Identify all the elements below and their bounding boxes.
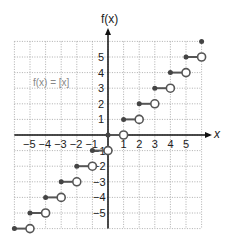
closed-endpoint-icon xyxy=(199,39,204,44)
y-axis-label: f(x) xyxy=(101,12,118,26)
closed-endpoint-icon xyxy=(168,70,173,75)
closed-endpoint-icon xyxy=(121,117,126,122)
y-tick-label: 4 xyxy=(98,67,104,79)
x-tick-label: −3 xyxy=(54,138,67,150)
x-tick-label: 4 xyxy=(167,138,173,150)
y-tick-label: −5 xyxy=(93,207,106,219)
y-axis-arrow-icon xyxy=(105,28,111,35)
x-tick-label: 3 xyxy=(152,138,158,150)
closed-endpoint-icon xyxy=(12,226,17,231)
open-endpoint-icon xyxy=(198,53,206,61)
y-tick-label: 5 xyxy=(98,51,104,63)
open-endpoint-icon xyxy=(26,225,34,233)
y-tick-label: 2 xyxy=(98,98,104,110)
x-tick-label: −4 xyxy=(39,138,52,150)
step-function-chart: −5−4−3−2−11234554321−1−2−3−4−5 f(x) x f(… xyxy=(0,0,234,247)
closed-endpoint-icon xyxy=(43,195,48,200)
closed-endpoint-icon xyxy=(152,86,157,91)
closed-endpoint-icon xyxy=(184,55,189,60)
x-tick-label: −5 xyxy=(23,138,36,150)
open-endpoint-icon xyxy=(42,209,50,217)
x-axis-arrow-icon xyxy=(205,132,212,138)
closed-endpoint-icon xyxy=(28,211,33,216)
closed-endpoint-icon xyxy=(59,179,64,184)
y-tick-label: 1 xyxy=(98,113,104,125)
y-tick-label: −4 xyxy=(93,191,106,203)
open-endpoint-icon xyxy=(182,69,190,77)
closed-endpoint-icon xyxy=(74,164,79,169)
closed-endpoint-icon xyxy=(137,101,142,106)
open-endpoint-icon xyxy=(166,84,174,92)
open-endpoint-icon xyxy=(57,193,65,201)
y-tick-label: −3 xyxy=(93,176,106,188)
open-endpoint-icon xyxy=(88,162,96,170)
closed-endpoint-icon xyxy=(106,133,111,138)
x-tick-label: 2 xyxy=(136,138,142,150)
function-equation-label: f(x) = [x] xyxy=(33,77,70,88)
closed-endpoint-icon xyxy=(90,148,95,153)
open-endpoint-icon xyxy=(135,115,143,123)
x-axis-label: x xyxy=(213,127,221,141)
y-tick-label: 3 xyxy=(98,82,104,94)
open-endpoint-icon xyxy=(151,100,159,108)
x-tick-label: 1 xyxy=(121,138,127,150)
x-tick-label: 5 xyxy=(183,138,189,150)
open-endpoint-icon xyxy=(104,147,112,155)
open-endpoint-icon xyxy=(73,178,81,186)
x-tick-label: −2 xyxy=(70,138,83,150)
open-endpoint-icon xyxy=(120,131,128,139)
